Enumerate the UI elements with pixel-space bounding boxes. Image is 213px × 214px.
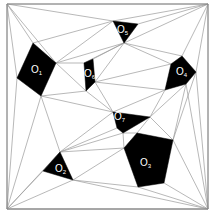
triangulation-edge: [41, 91, 86, 96]
triangulation-edge: [7, 4, 17, 78]
triangulation-edge: [73, 148, 124, 180]
triangulation-edge: [60, 112, 113, 152]
triangulation-edge: [113, 90, 165, 112]
obstacle-o1: O1: [17, 43, 56, 96]
obstacle-o3: O3: [124, 133, 173, 187]
triangulation-edge: [7, 180, 73, 209]
triangulation-edge: [150, 90, 165, 117]
triangulation-edge: [124, 43, 171, 64]
triangulation-edge: [7, 4, 33, 43]
triangulation-edge: [95, 82, 113, 112]
triangulation-edge: [56, 21, 113, 63]
triangulation-diagram: O1O6O5O4O7O3O2: [0, 0, 213, 214]
triangulation-edge: [113, 4, 208, 21]
obstacle-o2: O2: [43, 152, 73, 180]
triangulation-edge: [41, 96, 60, 152]
obstacle-label: O7: [114, 111, 126, 123]
triangulation-edge: [95, 82, 165, 90]
triangulation-edge: [124, 4, 208, 43]
obstacle-o7: O7: [113, 111, 150, 133]
triangulation-edge: [196, 4, 208, 72]
triangulation-edge: [33, 21, 113, 43]
obstacle-o6: O6: [84, 59, 96, 91]
triangulation-edge: [138, 187, 208, 209]
triangulation-edge: [123, 133, 124, 148]
obstacle-o5: O5: [113, 21, 138, 43]
triangulation-edge: [56, 63, 86, 91]
triangulation-edges: [7, 4, 208, 209]
triangulation-edge: [173, 84, 186, 140]
bounding-frame: [7, 4, 208, 209]
triangulation-edge: [138, 4, 208, 24]
triangulation-edge: [182, 4, 208, 56]
triangulation-edge: [7, 4, 113, 21]
triangulation-edge: [60, 148, 124, 152]
triangulation-edge: [60, 133, 123, 152]
triangulation-edge: [73, 180, 138, 187]
triangulation-edge: [7, 78, 17, 209]
triangulation-edge: [124, 43, 182, 56]
triangulation-edge: [60, 128, 117, 152]
triangulation-edge: [7, 96, 41, 209]
obstacle-polygon: [124, 133, 173, 187]
triangulation-edge: [186, 84, 208, 209]
